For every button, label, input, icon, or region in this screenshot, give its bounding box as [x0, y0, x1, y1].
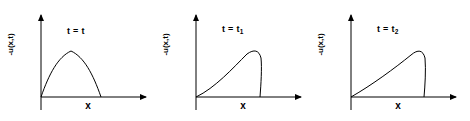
time-label-initial: t = t — [67, 26, 85, 36]
time-label-text: t = — [377, 24, 391, 34]
curve-t2 — [351, 51, 425, 97]
time-label-t1: t = t1 — [222, 24, 244, 34]
time-label-text: t = — [222, 24, 236, 34]
shock-formation-figure: -u(x,t) t = t x -u(x,t) t = t1 x -u(x,t)… — [0, 0, 470, 121]
y-axis-label: -u(x,t) — [6, 22, 15, 68]
plot-panel-t2: -u(x,t) t = t2 x — [310, 0, 465, 121]
y-axis-label: -u(x,t) — [316, 22, 325, 68]
curve-t1 — [196, 51, 261, 97]
plot-panel-initial: -u(x,t) t = t x — [0, 0, 155, 121]
x-axis-label: x — [233, 100, 253, 111]
time-label-subscript: 2 — [395, 28, 399, 35]
x-axis-label: x — [388, 100, 408, 111]
time-label-text: t = — [67, 26, 81, 36]
x-axis-label: x — [78, 100, 98, 111]
time-label-var: t — [81, 26, 84, 36]
y-axis-label: -u(x,t) — [161, 22, 170, 68]
curve-initial — [41, 51, 101, 97]
plot-panel-t1: -u(x,t) t = t1 x — [155, 0, 310, 121]
time-label-t2: t = t2 — [377, 24, 399, 34]
time-label-subscript: 1 — [240, 28, 244, 35]
